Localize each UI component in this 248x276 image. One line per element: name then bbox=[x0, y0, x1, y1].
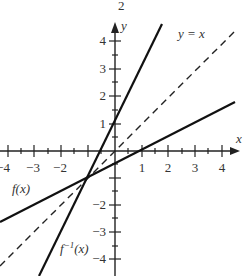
x-tick-label: 1 bbox=[139, 160, 146, 175]
x-tick-label: −2 bbox=[53, 160, 67, 175]
y-axis: 4 3 2 1 −2 −3 −4 y bbox=[92, 18, 127, 276]
x-axis-arrow-icon bbox=[230, 147, 240, 155]
f-inverse-label: f−1(x) bbox=[60, 240, 89, 256]
top-fragment: 2 bbox=[118, 0, 125, 13]
y-axis-label: y bbox=[119, 18, 127, 33]
x-axis: −4 −3 −2 1 2 3 4 x bbox=[0, 131, 242, 175]
y-tick-label: −3 bbox=[92, 224, 106, 239]
y-tick-label: −4 bbox=[92, 251, 106, 266]
x-tick-label: 2 bbox=[165, 160, 172, 175]
y-tick-label: −2 bbox=[92, 197, 106, 212]
x-axis-label: x bbox=[235, 131, 242, 146]
y-tick-label: 2 bbox=[100, 88, 107, 103]
x-tick-label: 3 bbox=[192, 160, 199, 175]
identity-label: y = x bbox=[176, 26, 205, 41]
identity-line bbox=[0, 32, 234, 266]
function-inverse-plot: 2 −4 −3 −2 1 2 3 4 bbox=[0, 0, 248, 276]
y-tick-label: 1 bbox=[100, 116, 107, 131]
x-tick-label: 4 bbox=[219, 160, 226, 175]
x-tick-label: −4 bbox=[0, 160, 10, 175]
y-axis-arrow-icon bbox=[111, 22, 119, 33]
f-label: f(x) bbox=[12, 181, 30, 196]
y-tick-label: 3 bbox=[100, 61, 107, 76]
x-tick-label: −3 bbox=[26, 160, 40, 175]
y-tick-label: 4 bbox=[100, 33, 107, 48]
